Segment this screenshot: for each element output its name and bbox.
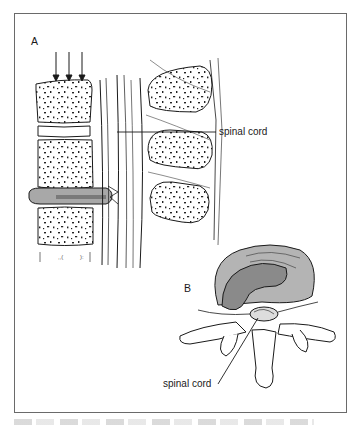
cropped-caption	[14, 419, 314, 425]
panel-a-drawing: ,,( ):	[29, 52, 222, 268]
compression-arrows-icon	[53, 52, 85, 81]
panel-b-drawing	[180, 245, 336, 388]
svg-text:):: ):	[80, 254, 84, 260]
panel-a-label: A	[31, 35, 38, 47]
panel-a-spinal-cord-label: spinal cord	[219, 126, 267, 137]
panel-b-label: B	[184, 282, 191, 294]
svg-text:,,(: ,,(	[58, 254, 63, 260]
spine-illustration: ,,( ):	[0, 0, 362, 427]
panel-b-spinal-cord-label: spinal cord	[163, 378, 211, 389]
